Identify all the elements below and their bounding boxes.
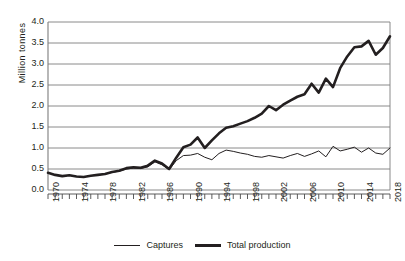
legend-swatch-icon [114, 245, 140, 246]
gridlines [48, 22, 390, 190]
series-line-total-production [48, 36, 390, 177]
x-axis-tick-label: 1974 [81, 182, 90, 202]
x-axis-tick-label: 1982 [138, 182, 147, 202]
legend-label: Total production [227, 240, 291, 250]
legend-entry-captures[interactable]: Captures [114, 240, 183, 250]
plot-area [0, 0, 405, 261]
x-axis-tick-label: 2014 [366, 182, 375, 202]
x-axis-tick-label: 1970 [52, 182, 61, 202]
chart-container: Million tonnes 4.03.53.02.52.01.51.00.50… [0, 0, 405, 261]
legend-swatch-icon [195, 244, 221, 247]
x-axis-tick-label: 2010 [337, 182, 346, 202]
x-axis-tick-label: 2018 [394, 182, 403, 202]
x-axis-tick-label: 2006 [309, 182, 318, 202]
x-axis-tick-label: 2002 [280, 182, 289, 202]
data-series-layer [48, 36, 390, 177]
chart-legend: CapturesTotal production [0, 236, 405, 254]
x-axis-tick-label: 1986 [166, 182, 175, 202]
legend-entry-total-production[interactable]: Total production [195, 240, 291, 250]
legend-label: Captures [146, 240, 183, 250]
x-axis-tick-label: 1994 [223, 182, 232, 202]
x-axis-tick-label: 1998 [252, 182, 261, 202]
x-axis-tick-label: 1990 [195, 182, 204, 202]
x-axis-tick-label: 1978 [109, 182, 118, 202]
series-line-captures [48, 146, 390, 177]
axis-frame [48, 22, 390, 194]
